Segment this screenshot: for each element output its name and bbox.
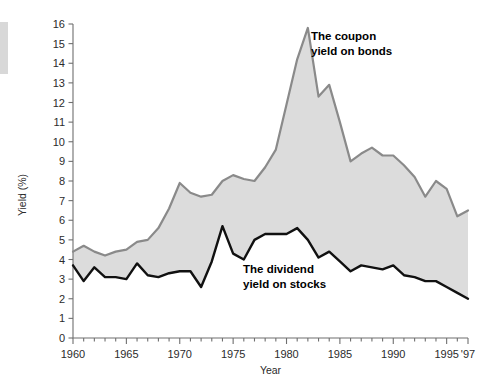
y-tick-label: 4 — [59, 254, 65, 266]
y-tick-label: 12 — [53, 97, 65, 109]
y-tick-label: 0 — [59, 332, 65, 344]
chart-figure: 0123456789101112131415161960196519701975… — [0, 0, 500, 385]
x-tick-label: 1960 — [61, 348, 85, 360]
x-tick-label: 1970 — [168, 348, 192, 360]
y-tick-label: 5 — [59, 234, 65, 246]
x-tick-label: 1985 — [328, 348, 352, 360]
y-axis-title: Yield (%) — [16, 174, 28, 216]
annotation-line: The coupon — [311, 30, 376, 42]
x-tick-label: 1975 — [221, 348, 245, 360]
y-tick-label: 14 — [53, 57, 65, 69]
annotation-line: The dividend — [243, 263, 314, 275]
y-tick-label: 11 — [54, 116, 65, 128]
y-tick-label: 13 — [53, 77, 65, 89]
y-tick-label: 16 — [53, 18, 65, 30]
series-fill-band — [73, 28, 468, 299]
x-tick-label: '97 — [461, 348, 475, 360]
y-tick-label: 3 — [59, 273, 65, 285]
annotation-coupon-yield-on-bonds: The couponyield on bonds — [311, 30, 392, 57]
y-tick-label: 8 — [59, 175, 65, 187]
x-tick-label: 1995 — [434, 348, 458, 360]
y-tick-label: 15 — [53, 38, 65, 50]
x-tick-label: 1965 — [114, 348, 138, 360]
annotation-line: yield on bonds — [311, 45, 392, 57]
yield-comparison-chart: 0123456789101112131415161960196519701975… — [0, 0, 500, 385]
annotation-line: yield on stocks — [243, 278, 326, 290]
x-tick-label: 1990 — [381, 348, 405, 360]
y-tick-label: 1 — [59, 312, 65, 324]
y-tick-label: 2 — [59, 293, 65, 305]
x-axis-title: Year — [260, 364, 282, 376]
y-tick-label: 9 — [59, 155, 65, 167]
y-tick-label: 10 — [53, 136, 65, 148]
x-tick-label: 1980 — [274, 348, 298, 360]
y-tick-label: 6 — [59, 214, 65, 226]
annotation-dividend-yield-on-stocks: The dividendyield on stocks — [243, 263, 326, 290]
y-tick-label: 7 — [59, 195, 65, 207]
page-edge-strip — [0, 22, 8, 74]
